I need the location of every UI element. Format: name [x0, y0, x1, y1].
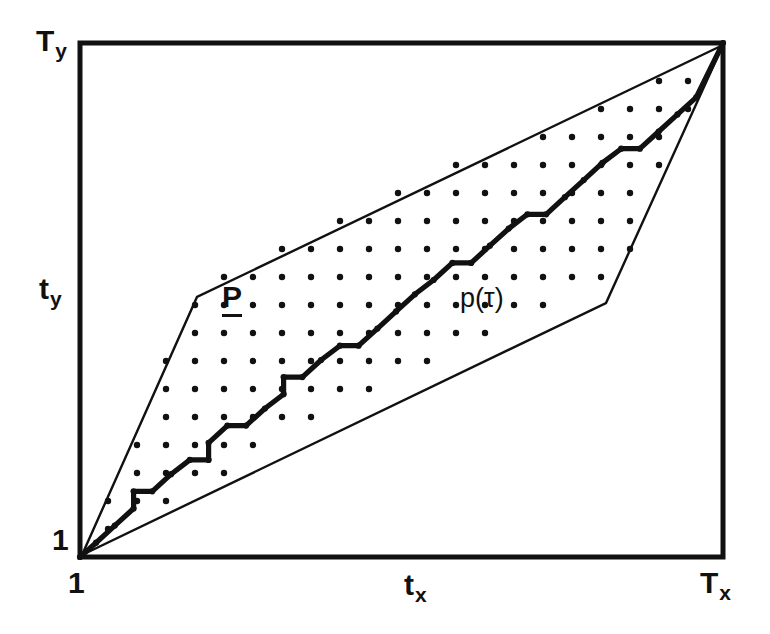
x-axis-mid-label-base: t: [404, 568, 414, 601]
lattice-dot: [105, 498, 111, 504]
warping-path-node: [720, 40, 726, 46]
lattice-dot: [627, 162, 633, 168]
lattice-dot: [424, 246, 430, 252]
lattice-dot: [598, 134, 604, 140]
lattice-dot: [192, 442, 198, 448]
region-label: P: [222, 282, 242, 317]
lattice-dot: [163, 414, 169, 420]
warping-path-node: [431, 277, 437, 283]
x-axis-max-label-base: T: [700, 566, 718, 599]
y-axis-max-label-base: T: [36, 24, 54, 57]
lattice-dot: [453, 246, 459, 252]
warping-path-node: [149, 488, 155, 494]
lattice-dot: [366, 302, 372, 308]
warping-path-node: [337, 343, 343, 349]
lattice-dot: [308, 302, 314, 308]
lattice-dot: [221, 386, 227, 392]
lattice-dot: [337, 302, 343, 308]
lattice-dot: [308, 246, 314, 252]
lattice-dot: [685, 78, 691, 84]
warping-path-node: [637, 146, 643, 152]
lattice-dot: [453, 302, 459, 308]
lattice-dot: [482, 330, 488, 336]
lattice-dot: [482, 162, 488, 168]
warping-path-node: [281, 374, 287, 380]
lattice-dot: [308, 358, 314, 364]
lattice-dot: [308, 330, 314, 336]
lattice-dot: [221, 330, 227, 336]
lattice-dot: [366, 358, 372, 364]
y-axis-mid-label-sub: y: [50, 287, 62, 310]
lattice-dot: [250, 386, 256, 392]
lattice-dot: [221, 470, 227, 476]
lattice-dot: [540, 274, 546, 280]
lattice-dot: [511, 246, 517, 252]
warping-path-node: [393, 308, 399, 314]
warping-path-nodes: [77, 40, 726, 560]
lattice-dot: [395, 246, 401, 252]
lattice-dot: [482, 274, 488, 280]
warping-path-node: [618, 146, 624, 152]
x-axis-mid-label-sub: x: [415, 583, 427, 606]
lattice-dot: [627, 134, 633, 140]
warping-path-node: [131, 505, 137, 511]
lattice-dot: [540, 246, 546, 252]
warping-path-line: [80, 43, 723, 557]
lattice-dot: [192, 470, 198, 476]
lattice-dot: [337, 386, 343, 392]
lattice-dot: [221, 442, 227, 448]
region-lower-boundary: [82, 45, 723, 555]
lattice-dot: [453, 190, 459, 196]
y-axis-max-label-sub: y: [55, 39, 67, 62]
lattice-dot: [279, 246, 285, 252]
y-axis-mid-label: ty: [39, 274, 61, 304]
lattice-dot: [627, 246, 633, 252]
warping-path-node: [412, 291, 418, 297]
lattice-dot: [134, 442, 140, 448]
lattice-dot: [250, 442, 256, 448]
y-axis-origin-value: 1: [52, 523, 69, 556]
lattice-dot: [482, 190, 488, 196]
warping-path-node: [187, 457, 193, 463]
warping-path-node: [112, 523, 118, 529]
warping-path-node: [487, 243, 493, 249]
plot-frame: [80, 43, 723, 557]
lattice-dot: [308, 274, 314, 280]
lattice-dot: [250, 330, 256, 336]
warping-path-node: [206, 457, 212, 463]
warping-path-node: [449, 260, 455, 266]
warping-path-node: [599, 160, 605, 166]
lattice-dot: [279, 274, 285, 280]
lattice-dot: [540, 302, 546, 308]
lattice-dot: [279, 358, 285, 364]
lattice-dot: [279, 330, 285, 336]
lattice-dot: [598, 218, 604, 224]
lattice-dot: [453, 218, 459, 224]
lattice-dot: [511, 162, 517, 168]
y-axis-max-label: Ty: [36, 26, 66, 56]
x-axis-origin-value: 1: [68, 566, 85, 599]
warping-path-node: [77, 554, 83, 560]
lattice-dot: [279, 414, 285, 420]
lattice-dot: [627, 106, 633, 112]
lattice-dot: [424, 274, 430, 280]
x-axis-max-label-sub: x: [719, 581, 731, 604]
warping-path-node: [581, 177, 587, 183]
lattice-dot: [598, 106, 604, 112]
lattice-dot: [163, 498, 169, 504]
lattice-dot: [511, 302, 517, 308]
warping-path-node: [262, 405, 268, 411]
region-upper-boundary: [82, 45, 723, 555]
lattice-dot: [656, 78, 662, 84]
lattice-dot: [656, 106, 662, 112]
lattice-dot: [337, 274, 343, 280]
lattice-dot: [192, 358, 198, 364]
warping-path-node: [299, 374, 305, 380]
lattice-dot: [163, 386, 169, 392]
lattice-dot: [482, 218, 488, 224]
lattice-dot: [424, 190, 430, 196]
warping-path-node: [224, 423, 230, 429]
lattice-dot: [250, 358, 256, 364]
warping-path-node: [524, 211, 530, 217]
lattice-dot: [627, 218, 633, 224]
